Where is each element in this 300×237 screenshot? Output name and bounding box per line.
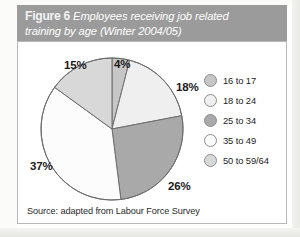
source-note: Source: adapted from Labour Force Survey bbox=[27, 206, 200, 216]
figure-caption-line-1: Employees receiving job related bbox=[73, 10, 228, 22]
page-margin-left bbox=[0, 0, 17, 237]
figure-title-line-1: Figure 6 Employees receiving job related bbox=[25, 9, 279, 24]
figure-caption-line-2: training by age (Winter 2004/05) bbox=[25, 25, 182, 37]
legend-swatch-icon-18-to-24 bbox=[204, 94, 217, 107]
legend-label-50-to-59-64: 50 to 59/64 bbox=[223, 155, 269, 166]
legend-swatch-icon-16-to-17 bbox=[204, 74, 217, 87]
page-margin-bottom bbox=[0, 228, 300, 237]
pie-slice-label-25-to-34: 26% bbox=[168, 180, 190, 192]
pie-slice-label-35-to-49: 37% bbox=[30, 160, 52, 172]
figure-title-line-2: training by age (Winter 2004/05) bbox=[25, 24, 279, 39]
figure-number-label: Figure 6 bbox=[25, 9, 70, 23]
pie-chart: 4% 18% 26% 37% 15% bbox=[28, 56, 196, 202]
figure-header-band: Figure 6 Employees receiving job related… bbox=[17, 5, 287, 41]
legend-swatch-icon-50-to-59-64 bbox=[204, 154, 217, 167]
legend-item-25-to-34: 25 to 34 bbox=[204, 111, 284, 129]
legend-swatch-icon-35-to-49 bbox=[204, 134, 217, 147]
legend-item-50-to-59-64: 50 to 59/64 bbox=[204, 151, 284, 169]
legend-label-35-to-49: 35 to 49 bbox=[223, 135, 256, 146]
legend-item-16-to-17: 16 to 17 bbox=[204, 71, 284, 89]
legend-label-18-to-24: 18 to 24 bbox=[223, 95, 256, 106]
chart-legend: 16 to 17 18 to 24 25 to 34 35 to 49 50 t… bbox=[204, 71, 284, 171]
legend-label-16-to-17: 16 to 17 bbox=[223, 75, 256, 86]
legend-item-18-to-24: 18 to 24 bbox=[204, 91, 284, 109]
pie-slice-group bbox=[41, 58, 183, 200]
legend-swatch-icon-25-to-34 bbox=[204, 114, 217, 127]
legend-label-25-to-34: 25 to 34 bbox=[223, 115, 256, 126]
page-margin-right bbox=[292, 0, 300, 237]
figure-content-panel: 4% 18% 26% 37% 15% 16 to 17 18 to 24 25 … bbox=[17, 41, 287, 224]
figure-container: Figure 6 Employees receiving job related… bbox=[0, 0, 300, 237]
legend-item-35-to-49: 35 to 49 bbox=[204, 131, 284, 149]
pie-slice-label-18-to-24: 18% bbox=[176, 81, 198, 93]
pie-slice-label-50-to-59-64: 15% bbox=[64, 59, 86, 71]
pie-slice-label-16-to-17: 4% bbox=[114, 58, 130, 70]
